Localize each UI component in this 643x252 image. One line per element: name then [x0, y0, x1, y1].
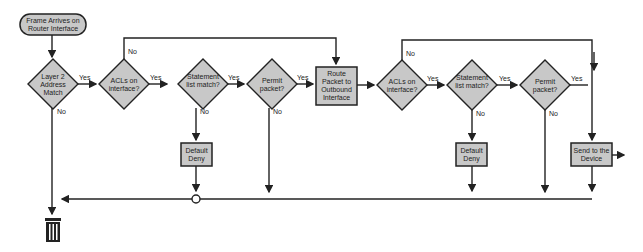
edge-yes: Yes: [79, 74, 90, 81]
edge-no: No: [406, 50, 415, 57]
decision-acls-inbound-label: ACLs on interface?: [104, 77, 144, 93]
decision-permit-outbound-label: Permit packet?: [527, 78, 563, 94]
trash-can-icon: [45, 218, 61, 242]
process-route-label: Route Packet to Outbound Interface: [316, 70, 357, 102]
default-deny-1-label: Default Deny: [181, 147, 212, 163]
edge-yes: Yes: [150, 74, 161, 81]
acl-flowchart: Frame Arrives on Router Interface Layer …: [0, 0, 643, 252]
edge-no: No: [273, 108, 282, 115]
edge-no: No: [200, 108, 209, 115]
flowchart-connectors: [0, 0, 643, 252]
edge-no: No: [549, 110, 558, 117]
edge-yes: Yes: [571, 75, 582, 82]
start-label: Frame Arrives on Router Interface: [20, 17, 86, 33]
edge-no: No: [476, 110, 485, 117]
edge-yes: Yes: [297, 74, 308, 81]
decision-permit-inbound-label: Permit packet?: [254, 77, 290, 93]
decision-statement-outbound-label: Statement list match?: [451, 74, 493, 90]
decision-acls-outbound-label: ACLs on interface?: [382, 78, 422, 94]
edge-no: No: [57, 108, 66, 115]
edge-yes: Yes: [427, 75, 438, 82]
edge-yes: Yes: [228, 74, 239, 81]
process-send-label: Send to the Device: [571, 147, 612, 163]
decision-statement-inbound-label: Statement list match?: [182, 73, 224, 89]
default-deny-2-label: Default Deny: [456, 147, 487, 163]
edge-no: No: [128, 48, 137, 55]
junction-dot: [192, 195, 200, 203]
decision-layer2-label: Layer 2 Address Match: [35, 73, 71, 97]
edge-yes: Yes: [499, 75, 510, 82]
